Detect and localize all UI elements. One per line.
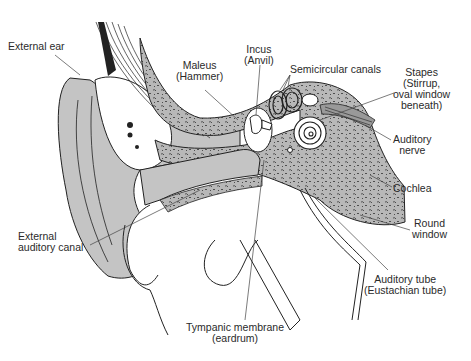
cochlea: [294, 117, 326, 149]
label-tympanic-membrane: Tympanic membrane (eardrum): [186, 322, 284, 344]
label-cochlea: Cochlea: [393, 183, 432, 194]
ear-anatomy-diagram: [0, 0, 471, 361]
label-external-ear: External ear: [8, 41, 65, 52]
label-auditory-tube: Auditory tube (Eustachian tube): [364, 274, 446, 296]
label-external-auditory-canal: External auditory canal: [18, 231, 83, 253]
ossicles: [250, 115, 262, 133]
label-incus: Incus (Anvil): [244, 44, 274, 66]
label-round-window: Round window: [412, 218, 447, 240]
label-maleus: Maleus (Hammer): [176, 60, 223, 82]
label-auditory-nerve: Auditory nerve: [393, 134, 432, 156]
label-stapes: Stapes (Stirrup, oval window beneath): [393, 67, 450, 111]
label-semicircular-canals: Semicircular canals: [290, 64, 381, 75]
